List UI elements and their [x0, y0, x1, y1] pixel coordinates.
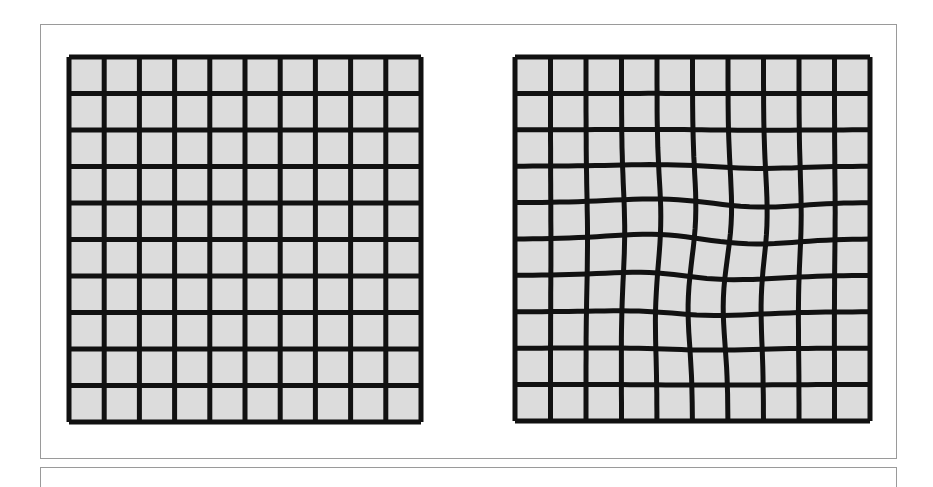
grid-horizontal-line	[515, 385, 870, 386]
grid-horizontal-line	[515, 348, 870, 350]
grid-vertical-line	[798, 57, 801, 421]
regular-grid-panel	[69, 57, 421, 422]
grid-horizontal-line	[515, 165, 870, 169]
warped-grid-panel	[515, 57, 870, 421]
next-figure-frame	[40, 467, 897, 487]
grid-horizontal-line	[515, 129, 870, 130]
